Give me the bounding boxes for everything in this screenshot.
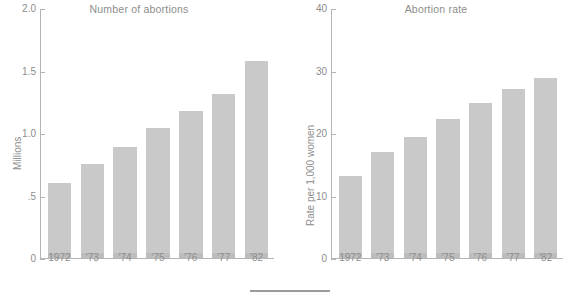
chart-panel-number-of-abortions: Number of abortions Millions 0 .5 1.0 1.… (0, 0, 290, 300)
bar-left-75 (146, 128, 169, 258)
bar-left-73 (81, 164, 104, 258)
figure-abortion-statistics: Number of abortions Millions 0 .5 1.0 1.… (0, 0, 578, 300)
bar-right-76 (469, 103, 492, 258)
bar-left-74 (113, 147, 136, 258)
bar-right-1972 (339, 176, 362, 259)
bar-left-82 (245, 61, 268, 259)
bar-right-75 (436, 119, 459, 258)
bar-left-1972 (48, 183, 71, 258)
bar-right-73 (371, 152, 394, 258)
x-tick-label-left-1: '73 (75, 253, 110, 263)
y-axis-label-left: Millions (12, 137, 23, 170)
x-tick-label-right-0: 1972 (333, 253, 368, 263)
bar-right-82 (534, 78, 557, 258)
plot-area-right: 0 10 20 30 40 (331, 9, 559, 259)
x-tick-label-right-3: '75 (430, 253, 465, 263)
bar-left-76 (179, 111, 202, 259)
bar-right-74 (404, 137, 427, 258)
x-tick-label-left-2: '74 (107, 253, 142, 263)
x-tick-label-right-6: '82 (528, 253, 563, 263)
bar-right-77 (502, 89, 525, 258)
x-tick-label-right-2: '74 (398, 253, 433, 263)
x-tick-label-right-4: '76 (463, 253, 498, 263)
bar-series-right (331, 9, 559, 258)
chart-panel-abortion-rate: Abortion rate 0 10 20 30 40 1972'73'74'7… (290, 0, 578, 300)
bar-left-77 (212, 94, 235, 258)
x-tick-label-left-5: '77 (206, 253, 241, 263)
footer-rule (250, 290, 330, 292)
x-tick-label-right-5: '77 (496, 253, 531, 263)
y-axis-label-right: Rate per 1,000 women (305, 125, 316, 226)
x-tick-label-left-6: '82 (239, 253, 274, 263)
x-tick-label-left-3: '75 (140, 253, 175, 263)
bar-series-left (40, 9, 270, 258)
x-tick-label-left-0: 1972 (42, 253, 77, 263)
plot-area-left: 0 .5 1.0 1.5 2.0 (40, 9, 270, 259)
x-tick-label-left-4: '76 (173, 253, 208, 263)
x-tick-label-right-1: '73 (365, 253, 400, 263)
